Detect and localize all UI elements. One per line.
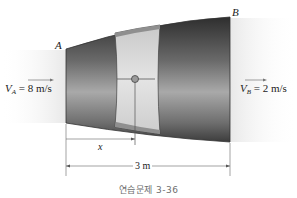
length-dimension-label: 3 m [133, 161, 152, 171]
length-dimension-arrow-right [226, 165, 230, 168]
x-dimension-arrow-right [131, 138, 135, 141]
length-dimension-arrow-left [66, 165, 70, 168]
point-A-label: A [55, 40, 62, 51]
inlet-velocity-subscript: A [12, 88, 16, 96]
x-dimension-label: x [96, 142, 104, 152]
outlet-velocity-symbol: V [240, 82, 247, 94]
outlet-velocity-label: VB = 2 m/s [240, 83, 287, 96]
point-B-label: B [232, 7, 239, 18]
outlet-velocity-subscript: B [247, 88, 251, 96]
inlet-velocity-label: VA = 8 m/s [5, 83, 52, 96]
fluid-particle [132, 76, 139, 83]
inlet-velocity-value: = 8 m/s [19, 82, 52, 94]
inlet-velocity-symbol: V [5, 82, 12, 94]
outlet-velocity-value: = 2 m/s [254, 82, 287, 94]
figure-caption: 연습문제 3-36 [0, 183, 297, 196]
diffuser-figure: A B VA = 8 m/s VB = 2 m/s x 3 m 연습문제 3-3… [0, 0, 297, 198]
